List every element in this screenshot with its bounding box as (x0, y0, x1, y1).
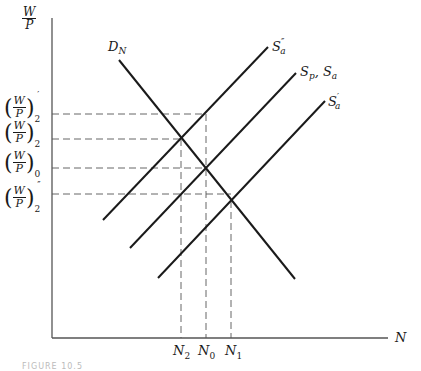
y-level-w-p-0: (WP)0 (4, 150, 40, 179)
x0-sub: 2 (184, 351, 190, 361)
demand-curve-dn (119, 60, 295, 279)
supply-curve-sa-prime (158, 101, 325, 278)
label-dn-main: D (108, 39, 118, 54)
y1-index: 2 (35, 139, 41, 149)
y-level-w-p-2: (WP)2 (4, 120, 40, 149)
y-axis-label-den: P (22, 19, 36, 31)
y3-den: P (13, 198, 26, 210)
figure-caption: FIGURE 10.5 (22, 362, 83, 371)
x2-main: N (225, 343, 236, 358)
x1-sub: 0 (209, 351, 215, 361)
y0-prime: ′ (37, 90, 39, 100)
label-sp-rest: , S (315, 64, 332, 79)
y-level-w-p-2-double-prime: (WP)2″ (4, 185, 44, 214)
diagram-canvas (0, 0, 421, 371)
label-sa1-sub: a (335, 101, 340, 111)
horizontal-guides (52, 114, 231, 194)
y-axis-label: W P (22, 6, 36, 31)
label-sa-double-prime: S″a (272, 38, 286, 56)
x0-main: N (173, 343, 184, 358)
x2-sub: 1 (236, 351, 242, 361)
label-sp-main: S (300, 64, 309, 79)
x-axis-label: N (395, 331, 406, 344)
label-sp-sub2: a (332, 71, 337, 81)
x-level-n2: N2 (173, 344, 190, 361)
label-dn: DN (108, 40, 126, 56)
y2-index: 0 (35, 169, 41, 179)
y3-prime: ″ (37, 180, 40, 190)
x-level-n0: N0 (198, 344, 215, 361)
label-sa2-sub: a (280, 46, 285, 56)
label-sp-sa: Sp, Sa (300, 65, 337, 81)
y3-index: 2 (35, 204, 41, 214)
y2-den: P (13, 163, 26, 175)
x1-main: N (198, 343, 209, 358)
x-level-n1: N1 (225, 344, 242, 361)
label-dn-sub: N (118, 46, 126, 56)
label-sa-prime: S′a (328, 93, 340, 111)
supply-curve-sp-sa (130, 73, 296, 248)
y1-den: P (13, 133, 26, 145)
